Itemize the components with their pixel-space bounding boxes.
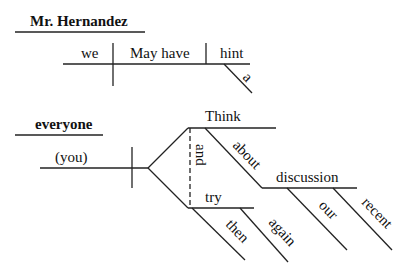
word-object-1: hint <box>220 45 244 61</box>
word-modifier-our: our <box>316 197 341 223</box>
diagram-sentence-2: everyone (you) and Think about discussio… <box>15 108 396 262</box>
word-address-1: Mr. Hernandez <box>30 13 128 29</box>
word-subject-2: (you) <box>55 149 88 166</box>
word-preposition-about: about <box>230 137 265 173</box>
word-address-2: everyone <box>35 116 93 132</box>
fork-upper <box>148 128 188 168</box>
word-verb-try: try <box>205 189 222 205</box>
word-verb-1: May have <box>130 45 190 61</box>
sentence-diagram: Mr. Hernandez we May have hint a everyon… <box>0 0 400 270</box>
word-verb-think: Think <box>205 108 241 124</box>
word-conjunction: and <box>193 144 209 166</box>
fork-lower <box>148 168 188 208</box>
word-modifier-then: then <box>223 216 253 246</box>
diagram-sentence-1: Mr. Hernandez we May have hint a <box>15 13 256 93</box>
word-modifier-recent: recent <box>359 194 397 232</box>
word-modifier-again: again <box>266 214 300 249</box>
word-object-discussion: discussion <box>276 169 339 185</box>
word-subject-1: we <box>81 45 99 61</box>
